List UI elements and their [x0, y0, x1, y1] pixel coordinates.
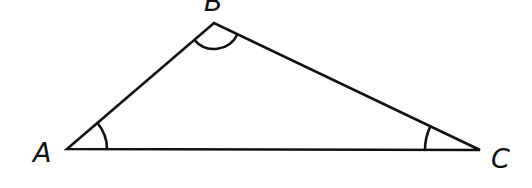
triangle-diagram: B A C	[0, 0, 532, 188]
vertex-label-a: A	[31, 137, 51, 168]
angle-arc-b	[194, 34, 237, 49]
triangle-abc	[67, 23, 480, 150]
vertex-label-b: B	[204, 0, 223, 17]
angle-arc-a	[97, 123, 107, 149]
angle-arc-c	[425, 126, 430, 150]
vertex-label-c: C	[491, 143, 510, 174]
